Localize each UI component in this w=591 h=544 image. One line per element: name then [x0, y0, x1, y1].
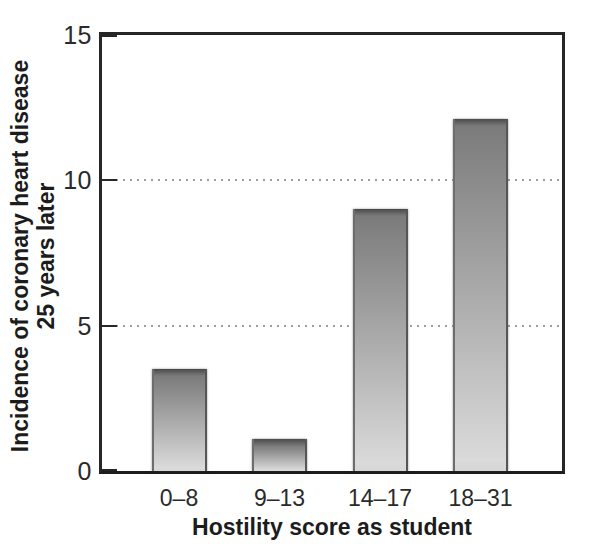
bar-0–8 — [152, 369, 207, 471]
y-tick-label-5: 5 — [78, 313, 92, 338]
y-tick-label-0: 0 — [78, 459, 92, 484]
x-tick-label-9–13: 9–13 — [254, 485, 305, 511]
x-tick-labels: 0–89–1314–1718–31 — [102, 485, 562, 513]
y-tickmark-5 — [102, 325, 117, 327]
y-tick-label-15: 15 — [63, 23, 92, 48]
y-tickmark-15 — [102, 35, 117, 37]
x-axis-title: Hostility score as student — [99, 514, 565, 541]
y-tick-labels: 051015 — [0, 35, 92, 471]
y-tick-label-10: 10 — [63, 168, 92, 193]
x-tick-label-18–31: 18–31 — [449, 485, 513, 511]
chart-figure: Incidence of coronary heart disease 25 y… — [0, 0, 591, 544]
x-tick-label-14–17: 14–17 — [348, 485, 412, 511]
x-tick-label-0–8: 0–8 — [160, 485, 198, 511]
y-tickmark-0 — [102, 469, 117, 471]
y-tickmark-10 — [102, 179, 117, 181]
bar-18–31 — [453, 119, 508, 471]
bar-9–13 — [252, 439, 307, 471]
plot-area — [99, 32, 565, 474]
bar-14–17 — [353, 209, 408, 471]
